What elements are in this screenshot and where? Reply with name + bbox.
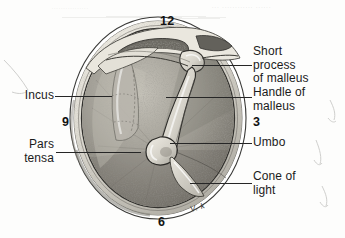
leader-line-cone-of-light (190, 183, 252, 184)
label-cone-of-light: Cone of light (253, 170, 296, 197)
label-handle-of-malleus: Handle of malleus (253, 86, 305, 113)
tympanic-membrane-figure: ... ............ ...... ................ (0, 0, 345, 238)
leader-line-incus (55, 96, 112, 97)
clock-position-12: 12 (160, 14, 174, 28)
leader-line-short-process (192, 65, 252, 66)
label-short-process-of-malleus: Short process of malleus (253, 45, 309, 86)
label-pars-tensa: Pars tensa (4, 138, 54, 165)
leader-line-pars-tensa (56, 152, 141, 153)
clock-position-6: 6 (158, 215, 165, 229)
eardrum-illustration (0, 0, 345, 238)
clock-position-9: 9 (62, 115, 69, 129)
leader-line-umbo (170, 143, 252, 144)
clock-position-3: 3 (253, 115, 260, 129)
label-incus: Incus (10, 89, 54, 103)
label-umbo: Umbo (253, 136, 285, 150)
leader-line-handle-of-malleus (166, 97, 252, 98)
